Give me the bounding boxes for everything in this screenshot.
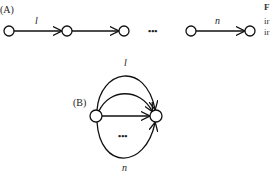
edge-b-middle-curve [99, 94, 152, 111]
edge-b-top [97, 76, 155, 110]
edge-a1-label: l [35, 15, 38, 26]
node-a4 [186, 26, 196, 36]
side-caption-line-1: F [264, 2, 270, 13]
side-caption-line-3: ir [264, 27, 270, 38]
diagram-canvas: (A) l ••• n (B) l ••• n [0, 0, 270, 173]
edge-b-bottom-label: n [122, 162, 127, 173]
panel-b-label: (B) [73, 97, 86, 109]
node-b-target [150, 110, 162, 122]
node-a3 [119, 26, 129, 36]
node-a1 [4, 26, 14, 36]
node-a2 [62, 26, 72, 36]
node-a5 [245, 26, 255, 36]
panel-a-label: (A) [0, 4, 14, 16]
edge-a-last-label: n [215, 15, 220, 26]
panel-a-ellipsis: ••• [148, 26, 157, 36]
panel-b-ellipsis: ••• [118, 131, 127, 141]
node-b-source [90, 110, 102, 122]
panel-a-chain: l ••• n [4, 15, 255, 36]
panel-b-multigraph: l ••• n [90, 57, 162, 173]
edge-b-top-label: l [124, 57, 127, 68]
side-caption-line-2: ir [264, 16, 270, 27]
